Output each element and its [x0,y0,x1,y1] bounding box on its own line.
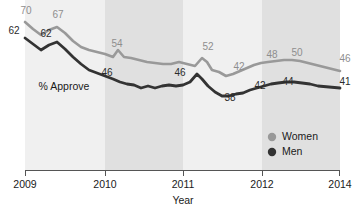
data-label-women: 70 [20,5,32,16]
data-label-women: 54 [111,38,123,49]
data-label-men: 46 [101,67,113,78]
x-tick-label-2014: 2014 [328,178,352,190]
data-label-women: 46 [339,53,351,64]
data-label-women: 42 [233,61,245,72]
data-label-men: 62 [8,25,20,36]
x-tick-label-2010: 2010 [93,178,117,190]
data-label-men: 38 [224,92,236,103]
band-2011-2012 [183,0,262,170]
x-axis-tick-labels: 2009 2010 2011 2012 2014 [13,178,352,190]
chart-container: 70 67 54 52 42 48 50 46 62 62 46 46 38 4… [0,0,362,210]
data-label-men: 46 [174,67,186,78]
x-tick-label-2009: 2009 [13,178,37,190]
legend-label-men: Men [282,145,303,157]
x-tick-label-2011: 2011 [172,178,195,190]
data-label-men: 42 [254,80,266,91]
legend-swatch-men-icon [268,148,276,156]
data-label-men: 44 [282,76,294,87]
data-label-men: 41 [339,76,351,87]
data-label-women: 52 [202,41,214,52]
legend-swatch-women-icon [268,133,276,141]
legend-label-women: Women [282,130,318,142]
x-axis-title: Year [172,194,194,206]
x-tick-label-2012: 2012 [250,178,274,190]
data-label-women: 48 [266,49,278,60]
plot-y-label: % Approve [39,80,90,92]
data-label-women: 67 [52,9,64,20]
data-label-women: 50 [291,47,303,58]
data-label-men: 62 [40,28,52,39]
approval-line-chart: 70 67 54 52 42 48 50 46 62 62 46 46 38 4… [0,0,362,210]
